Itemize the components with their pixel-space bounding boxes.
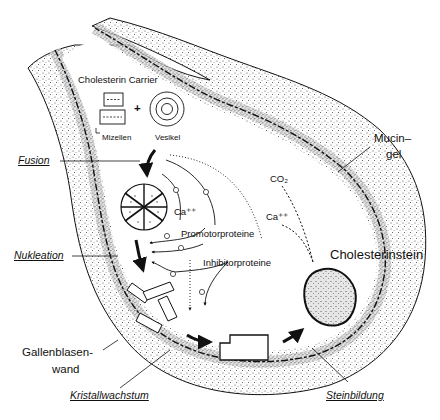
micelles-label: Mizellen	[102, 134, 131, 142]
plus-sign: +	[134, 103, 141, 115]
mucin-gel-label-line1: Mucin–	[374, 133, 411, 145]
fusion-label: Fusion	[18, 155, 50, 166]
promoter-proteins-label: Promotorproteine	[181, 229, 254, 239]
mucin-gel-label-line2: gel	[386, 149, 401, 161]
fused-vesicle	[121, 184, 167, 230]
calcium-label-1: Ca⁺⁺	[174, 207, 196, 217]
vesicle-label: Vesikel	[155, 134, 180, 142]
cholesterol-stone-label: Cholesterinstein	[330, 248, 423, 261]
co2-label: CO₂	[270, 174, 288, 184]
gallbladder-wall-label-line2: wand	[52, 364, 80, 376]
cholesterol-stone	[304, 269, 356, 326]
inhibitor-proteins-label: Inhibitorproteine	[203, 258, 271, 268]
cholesterol-carrier-label: Cholesterin Carrier	[78, 75, 158, 85]
nucleation-label: Nukleation	[14, 250, 64, 261]
calcium-label-2: Ca⁺⁺	[266, 212, 288, 222]
stone-formation-label: Steinbildung	[326, 390, 384, 401]
gallbladder-wall-label-line1: Gallenblasen-	[22, 347, 93, 359]
crystal-growth-label: Kristallwachstum	[70, 390, 149, 401]
